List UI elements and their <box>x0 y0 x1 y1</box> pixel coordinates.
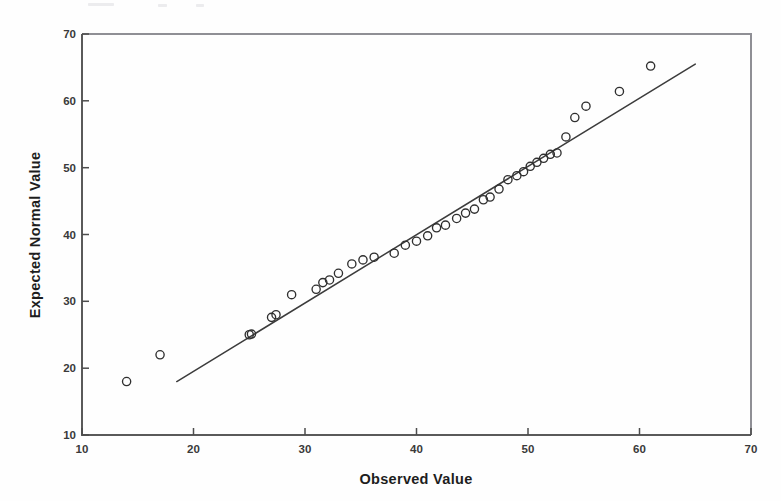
data-point <box>424 232 432 240</box>
y-tick-label-20: 20 <box>63 362 76 374</box>
data-point <box>571 113 579 121</box>
data-point <box>615 87 623 95</box>
y-tick-label-40: 40 <box>63 229 76 241</box>
x-tick-label-10: 10 <box>76 443 89 455</box>
data-point <box>348 260 356 268</box>
data-point <box>441 221 449 229</box>
qq-plot-canvas: 70 60 50 40 30 20 10 Expected Normal Val… <box>0 0 781 501</box>
normal-reference-line <box>177 64 695 381</box>
data-point <box>582 102 590 110</box>
x-tick-label-50: 50 <box>522 443 535 455</box>
scan-artifacts <box>88 3 204 7</box>
data-point <box>359 256 367 264</box>
y-tick-label-30: 30 <box>63 295 76 307</box>
x-axis: 10 20 30 40 50 60 70 Observed Value <box>76 428 758 487</box>
y-tick-label-10: 10 <box>63 429 76 441</box>
data-point <box>412 237 420 245</box>
data-point <box>123 377 131 385</box>
data-point <box>470 205 478 213</box>
data-point <box>156 351 164 359</box>
data-point <box>312 285 320 293</box>
y-tick-label-50: 50 <box>63 162 76 174</box>
scatter-points-layer <box>123 62 655 386</box>
qq-plot-figure: 70 60 50 40 30 20 10 Expected Normal Val… <box>0 0 781 501</box>
data-point <box>562 133 570 141</box>
reference-line-group <box>177 64 695 381</box>
data-point <box>461 209 469 217</box>
y-tick-group <box>82 34 89 435</box>
x-tick-group <box>82 428 751 435</box>
x-tick-label-70: 70 <box>745 443 758 455</box>
data-point <box>432 224 440 232</box>
data-point <box>390 249 398 257</box>
y-tick-label-60: 60 <box>63 95 76 107</box>
x-axis-title: Observed Value <box>359 471 472 487</box>
data-point <box>495 185 503 193</box>
y-axis-title: Expected Normal Value <box>27 152 43 319</box>
y-tick-label-70: 70 <box>63 28 76 40</box>
data-point <box>453 214 461 222</box>
x-tick-label-30: 30 <box>299 443 312 455</box>
data-point <box>647 62 655 70</box>
x-tick-label-40: 40 <box>410 443 423 455</box>
data-point <box>288 291 296 299</box>
x-tick-label-20: 20 <box>187 443 200 455</box>
y-axis: 70 60 50 40 30 20 10 Expected Normal Val… <box>27 28 89 441</box>
x-tick-label-60: 60 <box>633 443 646 455</box>
data-point <box>334 269 342 277</box>
